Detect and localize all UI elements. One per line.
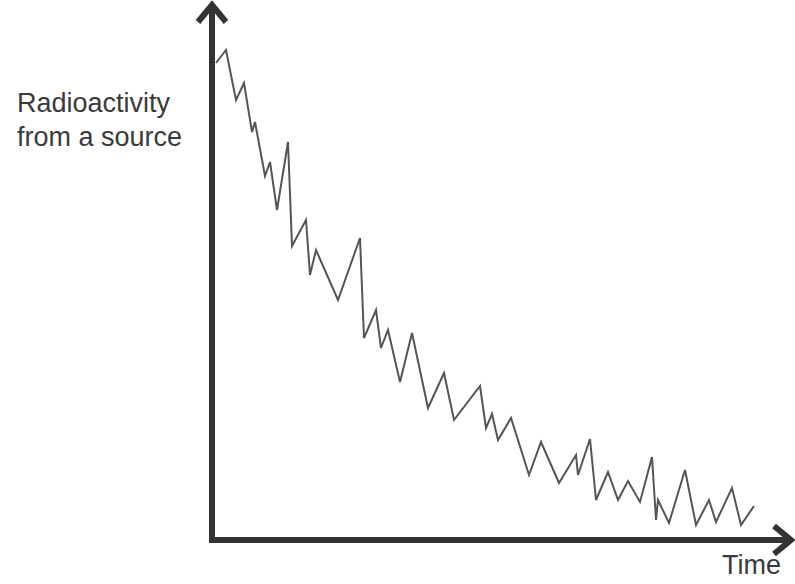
x-axis-label: Time <box>722 548 781 582</box>
decay-line <box>216 50 754 525</box>
y-axis-label-line-2: from a source <box>17 120 182 154</box>
y-axis-label-line-1: Radioactivity <box>17 86 182 120</box>
x-axis <box>209 526 791 554</box>
y-axis-label: Radioactivity from a source <box>17 86 182 154</box>
y-axis <box>198 5 226 540</box>
